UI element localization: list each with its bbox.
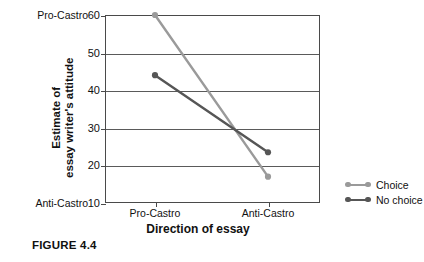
y-tick-label-10: 10 xyxy=(74,197,100,209)
y-axis-title-line-2: essay writer's attitude xyxy=(63,58,76,178)
gridline-40 xyxy=(106,91,319,92)
y-tick-label-50: 50 xyxy=(74,47,100,59)
y-tick-mark-40 xyxy=(101,91,106,92)
y-tick-label-30: 30 xyxy=(74,122,100,134)
y-tick-mark-50 xyxy=(101,54,106,55)
gridline-20 xyxy=(106,166,319,167)
y-tick-mark-10 xyxy=(101,204,106,205)
y-tick-mark-20 xyxy=(101,166,106,167)
y-tick-label-20: 20 xyxy=(74,159,100,171)
legend-swatch-choice xyxy=(345,180,371,190)
legend-label-choice: Choice xyxy=(376,179,409,191)
y-tick-mark-30 xyxy=(101,129,106,130)
legend-swatch-no-choice xyxy=(345,195,371,205)
legend-item-choice[interactable]: Choice xyxy=(345,178,423,191)
figure-4-4: Pro-Castro Anti-Castro 60 50 40 30 20 10… xyxy=(0,0,424,262)
figure-caption: FIGURE 4.4 xyxy=(32,239,97,251)
legend-label-no-choice: No choice xyxy=(376,194,423,206)
y-tick-mark-60 xyxy=(101,16,106,17)
gridline-50 xyxy=(106,54,319,55)
y-tick-label-60: 60 xyxy=(74,9,100,21)
x-axis-title: Direction of essay xyxy=(0,222,410,236)
plot-area xyxy=(105,15,320,203)
y-axis-title: Estimate of essay writer's attitude xyxy=(50,58,76,178)
chart-legend: Choice No choice xyxy=(345,178,423,208)
y-tick-label-40: 40 xyxy=(74,84,100,96)
x-tick-label-anti-castro: Anti-Castro xyxy=(223,207,313,219)
legend-item-no-choice[interactable]: No choice xyxy=(345,193,423,206)
y-axis-title-line-1: Estimate of xyxy=(50,58,63,178)
x-tick-label-pro-castro: Pro-Castro xyxy=(110,207,200,219)
gridline-30 xyxy=(106,129,319,130)
